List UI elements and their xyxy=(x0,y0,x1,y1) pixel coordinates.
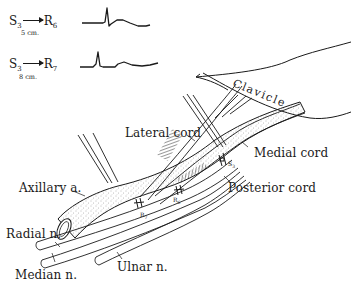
stimulus-symbol: S xyxy=(9,14,17,28)
recording-2-distance: 8 cm. xyxy=(19,74,37,81)
stimulus-subscript: 3 xyxy=(17,65,21,73)
stimulus-symbol: S xyxy=(9,57,17,71)
arrow-icon xyxy=(23,20,43,21)
anatomy-drawing: Clavicle xyxy=(0,0,351,290)
median-nerve-label: Median n. xyxy=(15,269,77,281)
radial-nerve-label: Radial n. xyxy=(6,228,61,240)
r7-pin-label: R7 xyxy=(140,211,148,220)
medial-cord-label: Medial cord xyxy=(254,147,328,159)
recording-subscript: 7 xyxy=(53,65,57,73)
brachial-plexus-figure: Clavicle xyxy=(0,0,351,290)
lateral-cord-label: Lateral cord xyxy=(125,127,201,139)
recording-2-label: S3R7 xyxy=(9,58,57,73)
recording-subscript: 6 xyxy=(53,22,57,30)
recording-1-distance: 5 cm. xyxy=(21,30,39,37)
recording-symbol: R xyxy=(44,14,53,28)
waveform-r6 xyxy=(82,8,150,26)
retractor-left xyxy=(78,133,118,183)
recording-1-label: S3R6 xyxy=(9,15,57,30)
recording-symbol: R xyxy=(44,57,53,71)
waveform-r7 xyxy=(80,52,158,67)
s3-pin-label: S3 xyxy=(228,160,235,169)
clavicle xyxy=(196,42,351,119)
arrow-icon xyxy=(23,63,43,64)
axillary-artery xyxy=(54,102,305,242)
ulnar-nerve-label: Ulnar n. xyxy=(117,261,168,273)
posterior-cord-label: Posterior cord xyxy=(228,182,316,194)
r6-pin-label: R6 xyxy=(173,196,181,205)
axillary-artery-label: Axillary a. xyxy=(19,182,82,194)
